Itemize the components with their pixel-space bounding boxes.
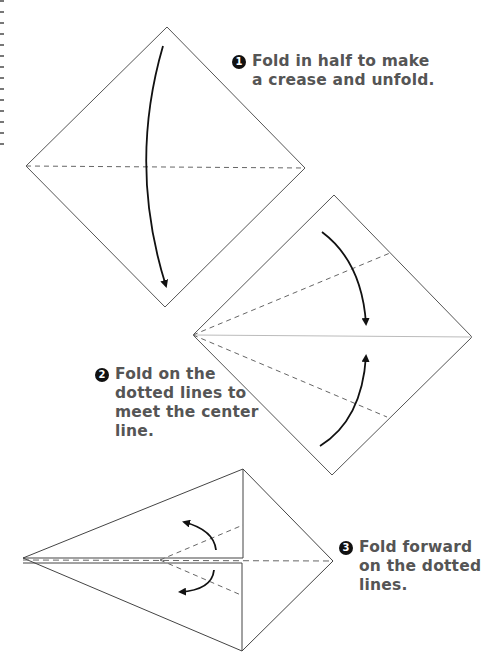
fold-down-arrow-icon [146,46,166,286]
step-1-instruction: 1 Fold in half to make a crease and unfo… [232,52,435,90]
fold-out-arrow-icon [184,522,216,550]
step3-paper [23,469,333,651]
fold-out-arrow-icon [180,570,214,592]
step-number-badge: 3 [339,541,353,555]
step-number-badge: 2 [95,368,109,382]
fold-in-arrow-icon [322,232,366,324]
fold-in-arrow-icon [320,356,366,446]
step-3-instruction: 3 Fold forward on the dotted lines. [339,538,481,595]
step-number-badge: 1 [232,55,246,69]
step-2-instruction: 2 Fold on the dotted lines to meet the c… [95,365,259,441]
